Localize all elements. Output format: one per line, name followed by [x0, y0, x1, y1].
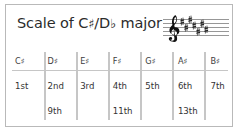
- sharp-icon: ♯: [85, 57, 89, 66]
- sharp-icon: ♯: [152, 57, 156, 66]
- tonic-sharp-letter: C: [78, 15, 88, 31]
- degree-cell-4: 4th: [104, 76, 137, 96]
- extended-cell-4: 11th: [104, 101, 137, 121]
- extended-cell-1: [6, 101, 39, 121]
- sharp-icon: ♯: [54, 57, 58, 66]
- key-signature-sharps: [180, 16, 208, 36]
- sharp-icon: ♯: [117, 57, 121, 66]
- extended-cell-2: 9th: [39, 101, 72, 121]
- degree-cell-5: 5th: [136, 76, 169, 96]
- note-cell-6: A♯: [169, 52, 202, 70]
- extended-cell-5: [136, 101, 169, 121]
- sharp-icon: ♯: [184, 57, 188, 66]
- scale-degree-row: 1st 2nd 3rd 4th 5th 6th 7th: [6, 76, 233, 96]
- degree-cell-7: 7th: [201, 76, 233, 96]
- note-cell-2: D♯: [39, 52, 72, 70]
- scale-degree-table: C♯ D♯ E♯ F♯ G♯ A♯ B♯ 1st 2nd 3rd 4th 5th…: [6, 49, 233, 127]
- sharp-icon: ♯: [21, 57, 25, 66]
- title-prefix: Scale of: [17, 15, 78, 31]
- sharp-icon-7: [204, 26, 208, 34]
- sharp-icon: ♯: [216, 57, 220, 66]
- note-cell-3: E♯: [71, 52, 104, 70]
- degree-cell-2: 2nd: [39, 76, 72, 96]
- music-staff: [163, 14, 229, 43]
- degree-cell-3: 3rd: [71, 76, 104, 96]
- scale-reference-card: Scale of C♯/D♭ major: [5, 4, 233, 127]
- note-cell-4: F♯: [104, 52, 137, 70]
- header-divider: [12, 70, 228, 71]
- title-suffix: major: [116, 15, 162, 31]
- tonic-flat-letter: D: [99, 15, 110, 31]
- extended-cell-7: [201, 101, 233, 121]
- sharp-icon-4: [192, 22, 196, 30]
- note-cell-5: G♯: [136, 52, 169, 70]
- note-name-row: C♯ D♯ E♯ F♯ G♯ A♯ B♯: [6, 52, 233, 70]
- sharp-icon-1: [180, 18, 184, 26]
- extended-cell-6: 13th: [169, 101, 202, 121]
- degree-cell-1: 1st: [6, 76, 39, 96]
- extended-cell-3: [71, 101, 104, 121]
- note-cell-7: B♯: [201, 52, 233, 70]
- note-cell-1: C♯: [6, 52, 39, 70]
- extended-degree-row: 9th 11th 13th: [6, 101, 233, 121]
- page-title: Scale of C♯/D♭ major: [17, 14, 162, 33]
- card-header: Scale of C♯/D♭ major: [6, 5, 232, 49]
- degree-cell-6: 6th: [169, 76, 202, 96]
